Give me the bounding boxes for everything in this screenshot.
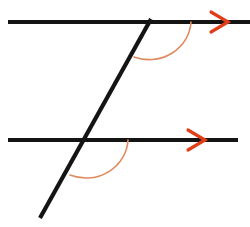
diagram-background (0, 0, 250, 227)
parallel-lines-transversal-svg (0, 0, 250, 227)
geometry-diagram-canvas (0, 0, 250, 227)
